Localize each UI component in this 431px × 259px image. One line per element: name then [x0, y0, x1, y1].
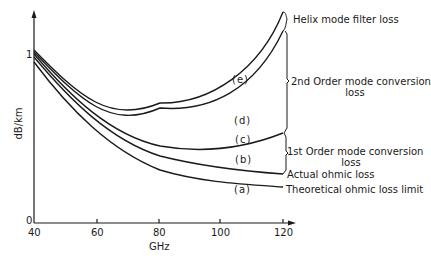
annotation-first-order-line1: 1st Order mode conversion	[287, 146, 415, 157]
x-tick-120: 120	[274, 227, 293, 238]
x-axis-arrow-icon	[288, 221, 296, 226]
curve-tag-e: (e)	[232, 74, 249, 85]
x-axis-label: GHz	[149, 241, 170, 252]
annotation-actual-ohmic: Actual ohmic loss	[287, 169, 374, 180]
curve-e	[34, 12, 283, 110]
x-tick-100: 100	[211, 227, 230, 238]
brace-second-order	[284, 31, 289, 133]
annotation-first-order-line2: loss	[287, 157, 415, 168]
annotation-second-order-line1: 2nd Order mode conversion	[291, 76, 419, 87]
brace-helix	[283, 12, 287, 31]
axes	[34, 14, 292, 223]
annotation-first-order: 1st Order mode conversion loss	[287, 146, 415, 168]
curve-tag-b: (b)	[235, 154, 252, 165]
y-axis-arrow-icon	[32, 10, 37, 18]
annotation-helix: Helix mode filter loss	[293, 14, 399, 25]
curve-tag-c: (c)	[235, 134, 251, 145]
annotation-second-order: 2nd Order mode conversion loss	[291, 76, 419, 98]
x-tick-40: 40	[28, 227, 41, 238]
curve-tag-d: (d)	[234, 115, 251, 126]
x-tick-80: 80	[153, 227, 166, 238]
annotation-theoretical-ohmic: Theoretical ohmic loss limit	[286, 184, 423, 195]
y-axis-label: dB/km	[13, 107, 24, 139]
curve-tag-a: (a)	[234, 184, 251, 195]
y-tick-1: 1	[26, 49, 32, 60]
y-tick-0: 0	[26, 215, 32, 226]
x-tick-60: 60	[91, 227, 104, 238]
annotation-second-order-line2: loss	[291, 87, 419, 98]
